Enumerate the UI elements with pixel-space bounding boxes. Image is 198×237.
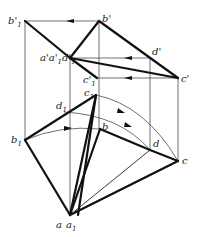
label-c1: c1 [84,87,94,101]
label-c: c [182,155,188,166]
label-d: d [153,138,159,149]
label-d1: d1 [56,100,67,114]
label-b1-prime: b'1 [8,15,22,29]
label-d-prime: d' [152,46,161,57]
label-a1: a1 [66,219,76,233]
rotation-diagram: b'1 b' a'a'1d'1 d' c' c'1 c1 d1 b1 b d c… [0,0,198,237]
label-b: b [102,121,108,132]
label-a: a [56,219,62,230]
label-a-a1-d1-prime: a'a'1d'1 [40,52,76,66]
label-c-prime: c' [181,73,189,84]
top-view-edges [25,95,178,215]
label-b1: b1 [11,134,22,148]
label-b-prime: b' [102,13,111,24]
